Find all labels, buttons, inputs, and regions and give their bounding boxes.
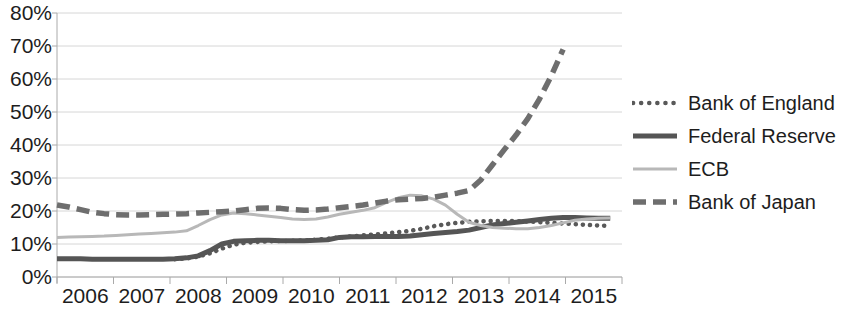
chart-legend: Bank of EnglandFederal ReserveECBBank of… bbox=[632, 86, 847, 218]
x-axis-tick-label: 2012 bbox=[393, 285, 455, 306]
x-axis-tick-label: 2013 bbox=[450, 285, 512, 306]
y-axis-tick-label: 70% bbox=[0, 35, 52, 56]
axis-lines bbox=[57, 13, 622, 283]
x-axis-tick-label: 2015 bbox=[563, 285, 625, 306]
x-axis-tick-label: 2006 bbox=[54, 285, 116, 306]
y-axis-tick-label: 80% bbox=[0, 2, 52, 23]
y-axis-tick-label: 60% bbox=[0, 68, 52, 89]
series-bank-of-japan bbox=[57, 49, 563, 215]
legend-swatch-icon bbox=[632, 162, 678, 176]
series-line bbox=[57, 49, 563, 215]
series-federal-reserve bbox=[57, 218, 610, 260]
x-axis-tick-label: 2007 bbox=[111, 285, 173, 306]
legend-item[interactable]: Bank of England bbox=[632, 86, 847, 119]
legend-swatch-icon bbox=[632, 96, 678, 110]
legend-swatch-icon bbox=[632, 195, 678, 209]
legend-swatch-icon bbox=[632, 129, 678, 143]
series-line bbox=[57, 218, 610, 260]
y-axis-tick-label: 30% bbox=[0, 167, 52, 188]
y-axis-tick-label: 20% bbox=[0, 200, 52, 221]
x-axis-tick-label: 2011 bbox=[337, 285, 399, 306]
legend-item[interactable]: Bank of Japan bbox=[632, 185, 847, 218]
x-axis-tick-label: 2008 bbox=[167, 285, 229, 306]
y-axis: 80%70%60%50%40%30%20%10%0% bbox=[0, 0, 52, 290]
y-axis-tick-label: 0% bbox=[0, 266, 52, 287]
x-axis-tick-label: 2014 bbox=[506, 285, 568, 306]
legend-label: Federal Reserve bbox=[688, 126, 836, 146]
chart-container: 80%70%60%50%40%30%20%10%0% 2006200720082… bbox=[0, 0, 849, 310]
x-tick-marks bbox=[57, 277, 622, 284]
y-tick-marks bbox=[52, 13, 57, 277]
legend-item[interactable]: ECB bbox=[632, 152, 847, 185]
x-axis-tick-label: 2009 bbox=[224, 285, 286, 306]
legend-item[interactable]: Federal Reserve bbox=[632, 119, 847, 152]
y-axis-tick-label: 40% bbox=[0, 134, 52, 155]
y-axis-tick-label: 50% bbox=[0, 101, 52, 122]
y-axis-tick-label: 10% bbox=[0, 233, 52, 254]
x-axis-tick-label: 2010 bbox=[280, 285, 342, 306]
legend-label: Bank of Japan bbox=[688, 192, 816, 212]
legend-label: Bank of England bbox=[688, 93, 835, 113]
legend-label: ECB bbox=[688, 159, 729, 179]
